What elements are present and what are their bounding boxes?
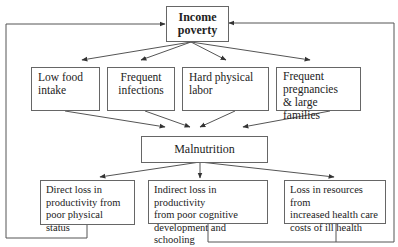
cause-text: Frequent — [283, 70, 354, 83]
consequence-direct-loss: Direct loss in productivity from poor ph… — [40, 180, 135, 225]
consequence-text: costs of ill health — [290, 222, 380, 235]
consequence-indirect-loss: Indirect loss in productivity from poor … — [148, 180, 268, 224]
consequence-text: development and schooling — [154, 222, 262, 247]
cause-text: intake — [38, 84, 93, 97]
consequence-text: from poor cognitive — [154, 209, 262, 222]
cause-frequent-infections: Frequent infections — [107, 67, 175, 111]
cause-text: Hard physical — [189, 71, 262, 84]
cause-text: & large families — [283, 96, 354, 122]
cause-text: Frequent — [114, 71, 168, 84]
consequence-text: Indirect loss in productivity — [154, 184, 262, 209]
consequence-text: productivity from — [46, 197, 129, 210]
cause-frequent-pregnancies: Frequent pregnancies & large families — [276, 67, 361, 111]
income-poverty-box: Income poverty — [166, 6, 229, 42]
cause-text: pregnancies — [283, 83, 354, 96]
income-poverty-label-2: poverty — [167, 24, 228, 37]
malnutrition-box: Malnutrition — [141, 136, 268, 163]
cause-hard-physical-labor: Hard physical labor — [182, 67, 269, 111]
cause-text: labor — [189, 84, 262, 97]
consequence-text: Direct loss in — [46, 184, 129, 197]
cause-text: infections — [114, 84, 168, 97]
malnutrition-label: Malnutrition — [174, 142, 235, 156]
cause-low-food-intake: Low food intake — [31, 67, 100, 111]
consequence-text: Loss in resources from — [290, 184, 380, 209]
consequence-resource-loss: Loss in resources from increased health … — [284, 180, 386, 224]
consequence-text: poor physical status — [46, 209, 129, 234]
cause-text: Low food — [38, 71, 93, 84]
consequence-text: increased health care — [290, 209, 380, 222]
